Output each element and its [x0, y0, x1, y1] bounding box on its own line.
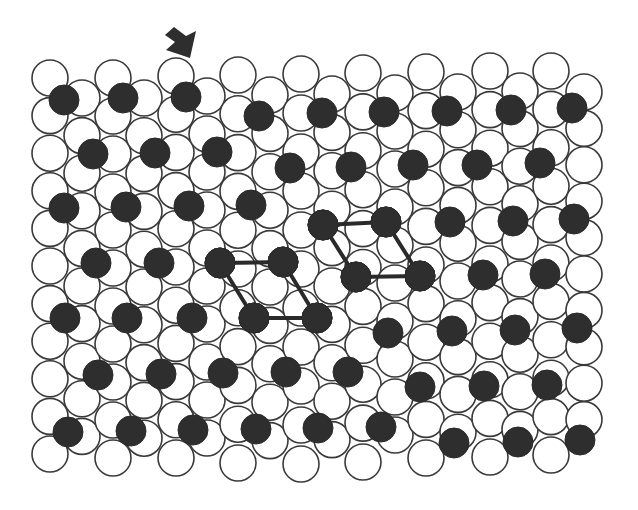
white-atom — [408, 440, 444, 476]
dark-atom — [462, 150, 492, 180]
dark-atom — [144, 248, 174, 278]
dark-atom — [559, 204, 589, 234]
white-atom — [283, 56, 319, 92]
white-atom — [345, 55, 381, 91]
dark-atom — [336, 152, 366, 182]
bonded-dark-atom — [302, 303, 332, 333]
dark-atom — [112, 303, 142, 333]
bonded-dark-atom — [308, 210, 338, 240]
dark-atom — [111, 192, 141, 222]
white-atom — [472, 53, 508, 89]
bonded-dark-atom — [371, 207, 401, 237]
dark-atom — [398, 150, 428, 180]
dark-atom — [405, 372, 435, 402]
dark-atom — [53, 417, 83, 447]
dark-atom — [530, 259, 560, 289]
dark-atom — [373, 318, 403, 348]
white-atom — [220, 445, 256, 481]
dark-atom — [78, 139, 108, 169]
dark-atom — [435, 207, 465, 237]
dark-atom — [496, 95, 526, 125]
dark-atom — [178, 415, 208, 445]
bonded-dark-atom — [239, 303, 269, 333]
arrow-icon — [165, 27, 196, 58]
dark-atom — [108, 83, 138, 113]
dark-atom — [50, 303, 80, 333]
dark-atom — [174, 191, 204, 221]
atomic-lattice-diagram — [0, 0, 638, 510]
dark-atom — [146, 359, 176, 389]
dark-atom — [140, 138, 170, 168]
dark-atom — [437, 316, 467, 346]
dark-atom — [241, 414, 271, 444]
dark-atom — [244, 101, 274, 131]
white-atom — [220, 57, 256, 93]
dark-atom — [236, 190, 266, 220]
dark-atom — [498, 206, 528, 236]
white-atom — [566, 365, 602, 401]
dark-atom — [500, 315, 530, 345]
bonded-dark-atom — [268, 247, 298, 277]
dark-atom — [303, 413, 333, 443]
dark-atom — [532, 370, 562, 400]
dark-atom — [202, 137, 232, 167]
white-atom — [472, 439, 508, 475]
white-atom — [533, 399, 569, 435]
white-atom — [408, 401, 444, 437]
white-atom — [345, 444, 381, 480]
dark-atom — [333, 357, 363, 387]
dark-atom — [468, 260, 498, 290]
dark-atom — [503, 427, 533, 457]
white-atom — [533, 53, 569, 89]
white-atom — [158, 440, 194, 476]
dark-atom — [469, 371, 499, 401]
dark-atom — [275, 153, 305, 183]
dark-atom — [565, 425, 595, 455]
white-atom — [533, 437, 569, 473]
dark-atom — [49, 85, 79, 115]
white-atom — [345, 288, 381, 324]
dark-atom — [171, 82, 201, 112]
dark-atom — [525, 148, 555, 178]
dark-atom — [177, 303, 207, 333]
dark-atom — [366, 412, 396, 442]
dark-atom — [116, 416, 146, 446]
dark-atom — [271, 357, 301, 387]
white-atom — [408, 54, 444, 90]
dark-atom — [81, 248, 111, 278]
white-atom — [533, 283, 569, 319]
white-atom — [566, 147, 602, 183]
dark-atom — [439, 428, 469, 458]
bonded-dark-atom — [341, 262, 371, 292]
dark-atom — [369, 97, 399, 127]
bonded-dark-atom — [405, 261, 435, 291]
dark-atom — [557, 93, 587, 123]
bonded-dark-atom — [205, 248, 235, 278]
white-atom — [32, 248, 68, 284]
white-atom — [32, 135, 68, 171]
white-atom — [283, 446, 319, 482]
dark-atom — [432, 96, 462, 126]
dark-atom — [83, 360, 113, 390]
dark-atom — [208, 358, 238, 388]
white-atom — [566, 256, 602, 292]
dark-atom — [307, 98, 337, 128]
dark-atom — [562, 313, 592, 343]
dark-atom — [49, 193, 79, 223]
white-atom — [32, 361, 68, 397]
white-atom — [408, 286, 444, 322]
